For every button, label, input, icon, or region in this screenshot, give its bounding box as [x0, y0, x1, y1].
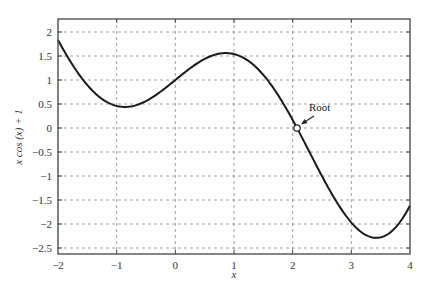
x-tick-label: −1 — [111, 259, 123, 271]
x-axis-label: x — [231, 268, 237, 280]
root-label: Root — [309, 101, 330, 113]
y-tick-label: 0.5 — [38, 98, 52, 110]
root-marker-icon — [294, 125, 300, 131]
y-tick-label: 1 — [47, 74, 53, 86]
root-annotation: Root — [294, 101, 331, 131]
chart-canvas: −2−101234 21.510.50−0.5−1−1.5−2−2.5 Root… — [0, 0, 434, 295]
y-tick-label: 1.5 — [38, 50, 52, 62]
y-tick-label: −1.5 — [32, 194, 52, 206]
y-tick-label: 0 — [47, 122, 53, 134]
arrowhead-icon — [301, 119, 308, 125]
y-tick-label: 2 — [47, 26, 53, 38]
x-tick-label: 2 — [290, 259, 296, 271]
y-tick-label: −0.5 — [32, 146, 52, 158]
y-tick-labels: 21.510.50−0.5−1−1.5−2−2.5 — [32, 26, 52, 254]
y-tick-label: −2.5 — [32, 242, 52, 254]
x-tick-label: −2 — [52, 259, 64, 271]
x-tick-label: 4 — [407, 259, 413, 271]
y-tick-label: −2 — [40, 218, 52, 230]
x-tick-label: 0 — [173, 259, 179, 271]
y-tick-label: −1 — [40, 170, 52, 182]
x-tick-label: 3 — [349, 259, 355, 271]
y-axis-label: x cos (x) + 1 — [12, 109, 25, 166]
